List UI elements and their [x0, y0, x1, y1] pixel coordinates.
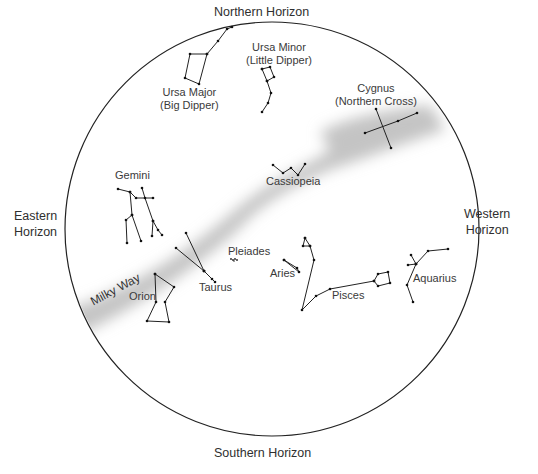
star-icon	[315, 295, 318, 298]
star-icon	[185, 232, 188, 235]
star-icon	[173, 286, 176, 289]
star-icon	[117, 188, 120, 191]
star-icon	[406, 284, 409, 287]
star-icon	[161, 234, 164, 237]
cygnus-name: Cygnus	[335, 82, 417, 95]
star-icon	[415, 263, 418, 266]
ursa-minor-common-name: (Little Dipper)	[246, 54, 312, 67]
star-icon	[261, 111, 264, 114]
ursa-minor-label: Ursa Minor (Little Dipper)	[246, 41, 312, 67]
star-icon	[261, 68, 264, 71]
star-icon	[283, 259, 286, 262]
star-icon	[226, 28, 229, 31]
southern-horizon-label: Southern Horizon	[214, 445, 311, 461]
star-icon	[198, 83, 201, 86]
star-icon	[416, 112, 419, 115]
eastern-horizon-line2: Horizon	[14, 224, 57, 240]
star-icon	[298, 271, 301, 274]
aquarius-label: Aquarius	[413, 272, 456, 285]
star-icon	[267, 102, 270, 105]
star-icon	[273, 76, 276, 79]
star-icon	[309, 245, 312, 248]
star-icon	[146, 320, 149, 323]
star-icon	[282, 172, 285, 175]
eastern-horizon-line1: Eastern	[14, 208, 57, 224]
star-icon	[389, 282, 392, 285]
star-icon	[157, 229, 160, 232]
gemini-figure	[132, 215, 141, 241]
ursa-minor-figure	[262, 67, 274, 81]
star-icon	[206, 53, 209, 56]
western-horizon-label: Western Horizon	[464, 206, 510, 238]
star-icon	[313, 259, 316, 262]
star-icon	[410, 254, 413, 257]
star-icon	[329, 288, 332, 291]
gemini-figure	[126, 192, 132, 243]
star-icon	[231, 26, 234, 29]
star-icon	[302, 245, 305, 248]
cygnus-common-name: (Northern Cross)	[335, 95, 417, 108]
ursa-major-figure	[185, 27, 232, 84]
aries-label: Aries	[270, 267, 295, 280]
ursa-major-name: Ursa Major	[160, 86, 219, 99]
pleiades-cluster-icon	[230, 258, 238, 262]
star-icon	[272, 164, 275, 167]
star-icon	[412, 301, 415, 304]
star-icon	[211, 278, 214, 281]
star-icon	[125, 219, 128, 222]
star-icon	[135, 197, 138, 200]
western-horizon-line2: Horizon	[464, 222, 510, 238]
star-icon	[373, 280, 376, 283]
star-icon	[427, 250, 430, 253]
star-icon	[266, 80, 269, 83]
star-icon	[129, 191, 132, 194]
orion-label: Orion	[129, 290, 156, 303]
ursa-major-common-name: (Big Dipper)	[160, 99, 219, 112]
aquarius-figure	[411, 249, 448, 264]
star-icon	[164, 301, 167, 304]
star-icon	[390, 147, 393, 150]
star-icon	[407, 264, 410, 267]
star-icon	[377, 285, 380, 288]
star-icon	[364, 132, 367, 135]
star-icon	[447, 248, 450, 251]
cygnus-label: Cygnus (Northern Cross)	[335, 82, 417, 108]
ursa-minor-name: Ursa Minor	[246, 41, 312, 54]
star-icon	[151, 235, 154, 238]
star-icon	[387, 271, 390, 274]
star-icon	[152, 220, 155, 223]
pleiades-label: Pleiades	[228, 245, 270, 258]
gemini-figure	[142, 188, 153, 236]
northern-horizon-label: Northern Horizon	[214, 4, 309, 20]
star-icon	[126, 242, 129, 245]
star-icon	[131, 214, 134, 217]
star-icon	[290, 167, 293, 170]
star-icon	[141, 187, 144, 190]
sky-chart	[0, 0, 538, 474]
taurus-label: Taurus	[199, 281, 232, 294]
star-icon	[203, 270, 206, 273]
star-icon	[189, 53, 192, 56]
star-icon	[301, 309, 304, 312]
gemini-figure	[153, 221, 162, 235]
ursa-minor-figure	[262, 81, 271, 112]
star-icon	[184, 77, 187, 80]
pisces-label: Pisces	[332, 289, 364, 302]
star-icon	[168, 321, 171, 324]
cassiopeia-label: Cassiopeia	[266, 175, 320, 188]
star-icon	[144, 197, 147, 200]
ursa-major-label: Ursa Major (Big Dipper)	[160, 86, 219, 112]
gemini-label: Gemini	[115, 169, 150, 182]
gemini-figure	[118, 189, 153, 198]
star-icon	[296, 267, 299, 270]
star-icon	[152, 197, 155, 200]
star-icon	[270, 92, 273, 95]
star-icon	[304, 163, 307, 166]
eastern-horizon-label: Eastern Horizon	[14, 208, 57, 240]
star-icon	[397, 120, 400, 123]
western-horizon-line1: Western	[464, 206, 510, 222]
star-icon	[375, 108, 378, 111]
star-icon	[304, 237, 307, 240]
star-icon	[140, 240, 143, 243]
star-icon	[154, 273, 157, 276]
